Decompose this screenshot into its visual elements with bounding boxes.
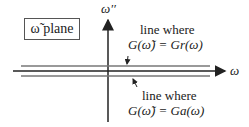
horizontal-axis-label: ω (230, 64, 239, 78)
upper-annotation-equation: G(ω̃) = Gr(ω) (128, 38, 203, 52)
lower-pointer-arrow (133, 79, 137, 87)
lower-annotation-line1: line where (142, 89, 197, 103)
plane-label: ω̃ plane (30, 21, 73, 36)
lower-annotation-equation: G(ω̃) = Ga(ω) (128, 104, 204, 118)
vertical-axis-label: ω′′ (101, 2, 116, 16)
upper-pointer-arrow (127, 56, 128, 64)
upper-annotation-line1: line where (140, 23, 195, 37)
plane-label-box: ω̃ plane (24, 18, 80, 40)
